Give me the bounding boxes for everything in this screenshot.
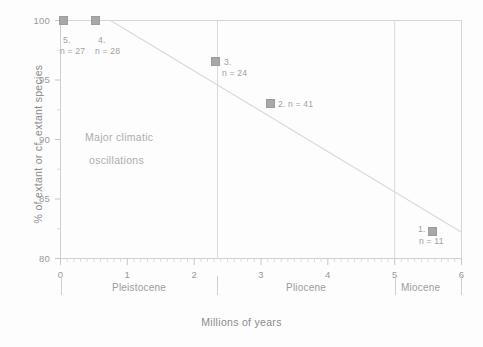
annotation-line-1: Major climatic	[85, 131, 153, 143]
data-point-marker[interactable]	[59, 16, 68, 25]
epoch-divider	[395, 276, 396, 295]
data-point-label: 5.	[63, 35, 71, 45]
data-point-n-label: n = 24	[222, 68, 247, 78]
trend-line	[111, 21, 462, 233]
epoch-label-pleistocene: Pleistocene	[61, 282, 217, 293]
chart-figure: 100 95 90 85 80 0 1 2 3 4 5 6 % of extan…	[0, 0, 483, 347]
data-point-label: 4.	[98, 35, 106, 45]
x-tick-label: 4	[316, 269, 340, 280]
x-axis-title: Millions of years	[0, 316, 483, 328]
data-point-label: 1.	[418, 224, 426, 234]
annotation-line-2: oscillations	[89, 154, 144, 166]
x-tick-label: 3	[249, 269, 273, 280]
data-point-marker[interactable]	[428, 227, 437, 236]
data-point-label: 2.	[278, 99, 286, 109]
data-point-n-label: n = 41	[288, 99, 313, 109]
data-point-label: 3.	[224, 57, 232, 67]
y-axis-title: % of extant or cf. extant species	[32, 14, 44, 274]
data-point-n-label: n = 11	[419, 236, 444, 246]
data-point-marker[interactable]	[266, 99, 275, 108]
epoch-label-miocene: Miocene	[397, 282, 471, 293]
x-tick-label: 2	[182, 269, 206, 280]
y-major-ticks	[55, 21, 61, 259]
data-point-n-label: n = 27	[60, 46, 85, 56]
data-point-marker[interactable]	[211, 57, 220, 66]
data-point-n-label: n = 28	[95, 46, 120, 56]
epoch-label-pliocene: Pliocene	[217, 282, 395, 293]
x-tick-label: 1	[115, 269, 139, 280]
data-point-marker[interactable]	[91, 16, 100, 25]
